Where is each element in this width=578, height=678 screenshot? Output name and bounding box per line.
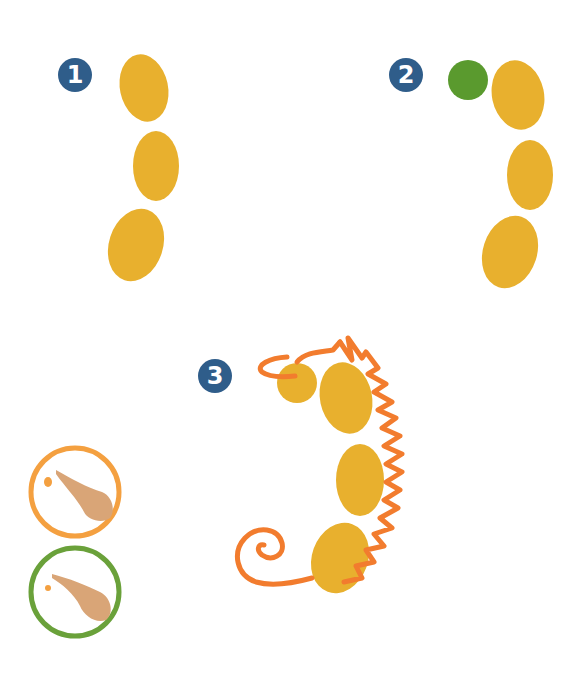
step-2-fingerprints: [448, 55, 553, 295]
illustration: [0, 0, 578, 678]
step-3-seahorse: [237, 338, 402, 601]
seahorse-craft-instructions: 1 2 3: [0, 0, 578, 678]
step-1-fingerprints: [99, 50, 179, 289]
orange-finger-hint-icon: [31, 448, 119, 536]
green-dot-icon: [448, 60, 488, 100]
green-finger-hint-icon: [31, 548, 119, 636]
